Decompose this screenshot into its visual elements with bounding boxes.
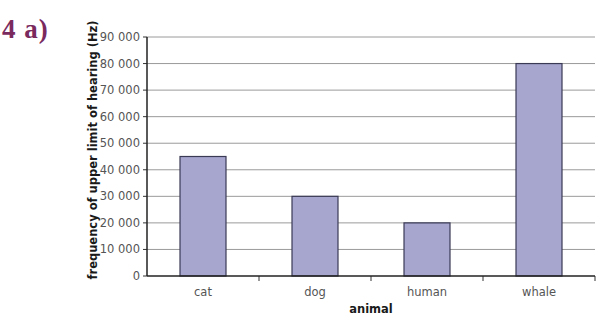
y-tick-label: 10 000 — [100, 242, 140, 256]
bar-cat — [180, 157, 226, 277]
x-category-label: whale — [522, 285, 556, 299]
y-tick-label: 50 000 — [100, 136, 140, 150]
y-tick-label: 0 — [133, 269, 140, 283]
y-tick-label: 70 000 — [100, 83, 140, 97]
bar-chart: 010 00020 00030 00040 00050 00060 00070 … — [0, 0, 603, 317]
bar-dog — [292, 196, 338, 276]
y-tick-label: 60 000 — [100, 110, 140, 124]
x-category-label: cat — [194, 285, 212, 299]
y-tick-label: 30 000 — [100, 189, 140, 203]
x-category-label: human — [407, 285, 447, 299]
bar-whale — [516, 64, 562, 276]
y-tick-label: 20 000 — [100, 216, 140, 230]
y-tick-label: 80 000 — [100, 57, 140, 71]
x-category-label: dog — [304, 285, 326, 299]
bar-human — [404, 223, 450, 276]
y-tick-label: 90 000 — [100, 30, 140, 44]
y-tick-label: 40 000 — [100, 163, 140, 177]
